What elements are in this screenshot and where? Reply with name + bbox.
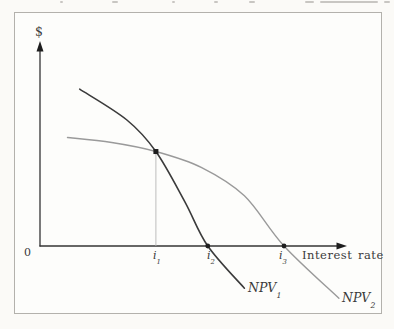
y-axis <box>37 41 44 247</box>
curve-label-npv1: NPV1 <box>248 282 281 295</box>
origin-label: 0 <box>24 247 31 258</box>
x-intercept-marker-1 <box>205 244 210 249</box>
intersection-marker <box>153 149 158 154</box>
curve-npv2 <box>68 138 339 299</box>
x-axis <box>40 243 348 250</box>
tick-i3: i3 <box>279 250 287 261</box>
curve-label-npv2: NPV2 <box>342 292 375 305</box>
y-axis-label: $ <box>35 26 43 39</box>
curve-npv1 <box>80 89 245 288</box>
tick-i1: i1 <box>153 250 161 261</box>
x-intercept-marker-2 <box>282 244 287 249</box>
y-axis-arrow-icon <box>37 41 44 52</box>
tick-i2: i2 <box>207 250 215 261</box>
curves-group <box>68 89 339 298</box>
figure-canvas <box>0 0 394 329</box>
x-axis-label: Interest rate <box>302 250 384 262</box>
